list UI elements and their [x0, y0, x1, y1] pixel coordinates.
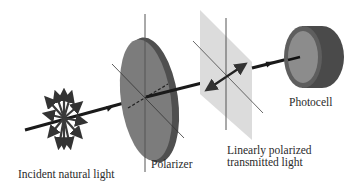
transmitted-light-label-line1: Linearly polarized — [227, 144, 312, 156]
transmitted-light-label: Linearly polarized transmitted light — [227, 144, 312, 168]
polarization-diagram: Incident natural light Polarizer Linearl… — [0, 0, 354, 189]
polarization-plane — [193, 10, 263, 140]
incident-light-label: Incident natural light — [18, 168, 114, 180]
natural-light-vectors-icon — [46, 92, 84, 146]
transmitted-light-label-line2: transmitted light — [227, 156, 312, 168]
polarizer-disk — [112, 14, 187, 172]
photocell-icon — [284, 26, 344, 88]
photocell-label: Photocell — [289, 96, 332, 108]
polarizer-label: Polarizer — [151, 158, 193, 170]
